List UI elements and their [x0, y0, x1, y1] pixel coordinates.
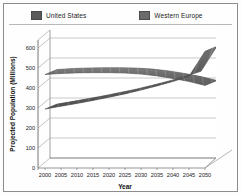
- chart-floor: [38, 158, 216, 168]
- y-tick-200: 200: [26, 125, 35, 131]
- chart-back-wall: [50, 30, 216, 158]
- x-tick-2010: 2010: [71, 172, 83, 178]
- x-tick-2050: 2050: [199, 172, 211, 178]
- x-tick-2005: 2005: [55, 172, 67, 178]
- plot-area: 600 500 400 300 200 100 0 2000 2005 2010…: [0, 0, 241, 195]
- x-tick-labels: 2000 2005 2010 2015 2020 2025 2030 2035 …: [39, 172, 211, 178]
- y-tick-400: 400: [26, 85, 35, 91]
- chart-svg: 600 500 400 300 200 100 0 2000 2005 2010…: [0, 0, 241, 195]
- x-tick-2025: 2025: [119, 172, 131, 178]
- x-axis-title: Year: [118, 183, 132, 190]
- x-tick-2040: 2040: [167, 172, 179, 178]
- x-tick-2020: 2020: [103, 172, 115, 178]
- chart-screenshot: United States Western Europe: [0, 0, 241, 195]
- y-tick-600: 600: [26, 45, 35, 51]
- x-tick-2000: 2000: [39, 172, 51, 178]
- x-tick-2015: 2015: [87, 172, 99, 178]
- y-tick-300: 300: [26, 105, 35, 111]
- y-tick-0: 0: [32, 165, 35, 171]
- y-tick-100: 100: [26, 145, 35, 151]
- x-tick-2030: 2030: [135, 172, 147, 178]
- y-tick-labels: 600 500 400 300 200 100 0: [26, 45, 35, 171]
- y-tick-500: 500: [26, 65, 35, 71]
- axis-depth-connectors: [38, 38, 50, 168]
- y-axis-title: Projected Population (Millions): [9, 56, 17, 151]
- axis-top-depth-edge: [38, 30, 50, 40]
- x-tick-2045: 2045: [183, 172, 195, 178]
- x-tick-2035: 2035: [151, 172, 163, 178]
